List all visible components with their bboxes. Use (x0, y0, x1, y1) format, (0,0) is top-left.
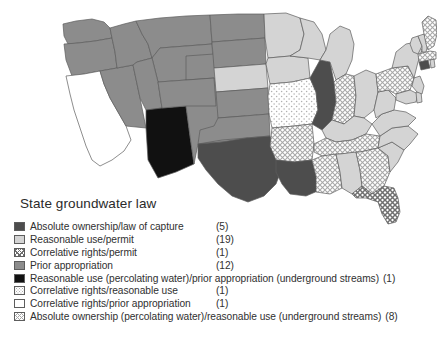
legend-items: Absolute ownership/law of capture (5) Re… (14, 220, 434, 323)
state-MO (268, 78, 318, 128)
legend-swatch-correlative-rights-reasonable-use (14, 286, 25, 295)
state-AR (270, 124, 314, 162)
legend-label-absolute-ownership: Absolute ownership/law of capture (30, 221, 216, 232)
legend-swatch-correlative-rights-prior-appropriation (14, 299, 25, 308)
legend-title: State groundwater law (20, 196, 434, 211)
legend-label-correlative-rights-permit: Correlative rights/permit (30, 247, 216, 258)
legend-count-absolute-ownership-reasonable-use: (8) (385, 311, 397, 322)
legend-swatch-reasonable-use-permit (14, 235, 25, 244)
groundwater-law-map-figure: State groundwater law Absolute ownership… (0, 0, 437, 337)
state-ND (210, 14, 265, 42)
state-AZ (146, 106, 194, 178)
legend-label-reasonable-use-prior-appropriation: Reasonable use (percolating water)/prior… (30, 273, 379, 284)
legend-item-absolute-ownership: Absolute ownership/law of capture (5) (14, 220, 434, 233)
legend-swatch-absolute-ownership-reasonable-use (14, 312, 25, 321)
state-TX (198, 136, 282, 202)
state-CO-main (158, 78, 216, 108)
legend-label-absolute-ownership-reasonable-use: Absolute ownership (percolating water)/r… (30, 311, 381, 322)
legend-label-correlative-rights-reasonable-use: Correlative rights/reasonable use (30, 285, 216, 296)
state-RI (430, 59, 435, 68)
state-KS (216, 88, 269, 118)
legend-count-prior-appropriation: (12) (216, 260, 234, 271)
state-SD (212, 38, 266, 68)
legend-item-absolute-ownership-reasonable-use: Absolute ownership (percolating water)/r… (14, 310, 434, 323)
legend-item-reasonable-use-prior-appropriation: Reasonable use (percolating water)/prior… (14, 272, 434, 285)
legend-label-reasonable-use-permit: Reasonable use/permit (30, 234, 216, 245)
legend-swatch-absolute-ownership (14, 222, 25, 231)
legend-item-correlative-rights-reasonable-use: Correlative rights/reasonable use (1) (14, 284, 434, 297)
state-PA (376, 66, 414, 94)
legend-count-reasonable-use-prior-appropriation: (1) (383, 273, 395, 284)
state-NJ (412, 76, 424, 94)
state-IN (332, 74, 356, 124)
legend-count-correlative-rights-reasonable-use: (1) (216, 285, 228, 296)
legend-swatch-correlative-rights-permit (14, 248, 25, 257)
legend-count-absolute-ownership: (5) (216, 221, 228, 232)
legend-swatch-prior-appropriation (14, 261, 25, 270)
legend-count-reasonable-use-permit: (19) (216, 234, 234, 245)
legend: State groundwater law Absolute ownership… (14, 196, 434, 323)
legend-item-reasonable-use-permit: Reasonable use/permit (19) (14, 233, 434, 246)
legend-item-correlative-rights-permit: Correlative rights/permit (1) (14, 246, 434, 259)
legend-label-prior-appropriation: Prior appropriation (30, 260, 216, 271)
legend-count-correlative-rights-permit: (1) (216, 247, 228, 258)
legend-item-prior-appropriation: Prior appropriation (12) (14, 259, 434, 272)
legend-count-correlative-rights-prior-appropriation: (1) (216, 298, 228, 309)
legend-label-correlative-rights-prior-appropriation: Correlative rights/prior appropriation (30, 298, 216, 309)
legend-item-correlative-rights-prior-appropriation: Correlative rights/prior appropriation (… (14, 297, 434, 310)
state-NE (214, 64, 268, 92)
legend-swatch-reasonable-use-prior-appropriation (14, 274, 25, 283)
